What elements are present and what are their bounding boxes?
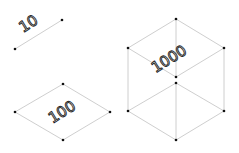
vertex-point bbox=[14, 111, 17, 114]
figure-rhombus: 100 bbox=[14, 83, 112, 142]
vertex-point bbox=[223, 110, 226, 113]
figure-cube: 1000 bbox=[127, 18, 226, 142]
vertex-point bbox=[175, 82, 178, 85]
vertex-point bbox=[175, 76, 178, 79]
label-100: 100 bbox=[45, 97, 79, 127]
vertex-point bbox=[223, 47, 226, 50]
vertex-point bbox=[127, 47, 130, 50]
vertex-point bbox=[175, 18, 178, 21]
cube-edge bbox=[176, 83, 224, 111]
figure-line: 10 bbox=[14, 11, 64, 50]
vertex-point bbox=[127, 110, 130, 113]
vertex-point bbox=[14, 48, 17, 51]
label-1000: 1000 bbox=[148, 41, 190, 77]
label-10: 10 bbox=[15, 11, 41, 36]
diagram-canvas: 10 100 1000 bbox=[0, 0, 239, 153]
vertex-point bbox=[109, 111, 112, 114]
vertex-point bbox=[175, 139, 178, 142]
vertex-point bbox=[62, 83, 65, 86]
cube-edge bbox=[128, 83, 176, 111]
vertex-point bbox=[61, 19, 64, 22]
vertex-point bbox=[62, 139, 65, 142]
